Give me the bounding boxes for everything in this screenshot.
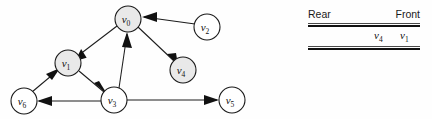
queue-cell-v4-sub: 4: [379, 35, 383, 44]
queue-header-row: Rear Front: [308, 8, 420, 23]
node-v2[interactable]: v2: [194, 14, 220, 40]
edge-v6-v1: [32, 68, 60, 92]
node-v2-sub: 2: [206, 27, 210, 36]
edge-v3-v0: [119, 32, 132, 88]
arrowhead-icon: [204, 95, 219, 105]
node-v4-sub: 4: [182, 70, 186, 79]
arrowhead-icon: [122, 32, 132, 48]
edge-v2-v0: [142, 12, 195, 24]
directed-graph: v0 v1 v2 v3 v4 v5: [0, 0, 260, 119]
queue-bottom-rule: [308, 46, 420, 50]
queue-rear-label: Rear: [308, 8, 331, 20]
figure-canvas: v0 v1 v2 v3 v4 v5: [0, 0, 432, 119]
node-v6[interactable]: v6: [11, 88, 37, 114]
node-v1-sub: 1: [67, 63, 71, 72]
node-v6-sub: 6: [23, 101, 27, 110]
node-v5-sub: 5: [231, 100, 235, 109]
node-v4[interactable]: v4: [170, 57, 196, 83]
node-v3-sub: 3: [113, 100, 117, 109]
queue-contents-row: v4 v1: [308, 27, 420, 46]
node-v0-sub: 0: [127, 19, 131, 28]
node-v3[interactable]: v3: [101, 87, 127, 113]
edge-v1-v3: [79, 71, 107, 94]
node-v1[interactable]: v1: [55, 50, 81, 76]
edge-v3-v6: [37, 96, 101, 106]
arrowhead-icon: [37, 96, 52, 106]
node-v0[interactable]: v0: [115, 6, 141, 32]
arrowhead-icon: [142, 12, 157, 22]
edge-v3-v5: [127, 95, 219, 105]
node-v5[interactable]: v5: [219, 87, 245, 113]
queue-cell-v4[interactable]: v4: [374, 29, 383, 44]
edge-v0-v4: [138, 27, 178, 65]
queue-cell-v1[interactable]: v1: [400, 29, 409, 44]
queue-front-label: Front: [395, 8, 420, 20]
queue-cell-v1-sub: 1: [405, 35, 409, 44]
queue-table: Rear Front v4 v1: [308, 8, 420, 50]
